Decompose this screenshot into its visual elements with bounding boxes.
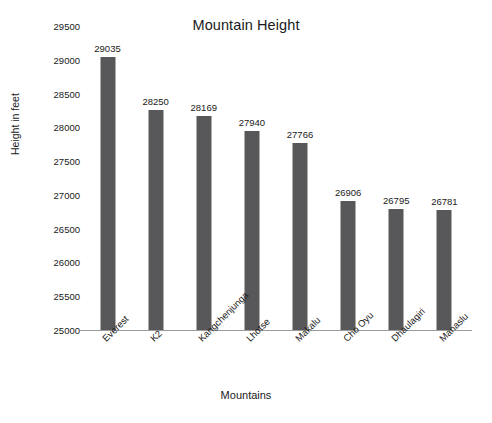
bar-slot: 28169 <box>180 26 227 330</box>
x-label-slot: Makalu <box>277 332 324 388</box>
bar[interactable] <box>341 201 356 330</box>
bar-slot: 26906 <box>325 26 372 330</box>
bar-value-label: 27940 <box>239 117 265 128</box>
plot-area: 2903528250281692794027766269062679526781 <box>84 26 469 330</box>
bar-value-label: 28169 <box>191 102 217 113</box>
bar[interactable] <box>389 209 404 330</box>
x-axis-category-labels: EverestK2KangchenjungaLhotseMakaluCho Oy… <box>84 332 469 388</box>
bar-value-label: 29035 <box>94 43 120 54</box>
x-label-slot: Cho Oyu <box>325 332 372 388</box>
y-tick-label: 28500 <box>36 88 80 99</box>
x-label-slot: K2 <box>132 332 179 388</box>
bar-slot: 26781 <box>421 26 468 330</box>
bar-value-label: 28250 <box>142 96 168 107</box>
x-label-slot: Everest <box>84 332 131 388</box>
bar-value-label: 26781 <box>431 196 457 207</box>
y-tick-label: 27000 <box>36 189 80 200</box>
x-label-slot: Kangchenjunga <box>180 332 227 388</box>
x-axis-title: Mountains <box>0 389 492 401</box>
x-label-slot: Manaslu <box>421 332 468 388</box>
bar-value-label: 26795 <box>383 195 409 206</box>
bar-slot: 28250 <box>132 26 179 330</box>
bar[interactable] <box>196 116 211 330</box>
y-tick-label: 25500 <box>36 291 80 302</box>
y-axis-tick-labels: 2500025500260002650027000275002800028500… <box>34 26 80 330</box>
y-tick-label: 25000 <box>36 325 80 336</box>
bar-chart: Mountain Height Height in feet 250002550… <box>0 0 492 423</box>
y-axis-title: Height in feet <box>9 45 21 155</box>
y-tick-label: 27500 <box>36 156 80 167</box>
bar-slot: 27940 <box>228 26 275 330</box>
bar[interactable] <box>437 210 452 330</box>
x-axis-line <box>80 330 472 331</box>
y-tick-label: 29500 <box>36 21 80 32</box>
bar-slot: 26795 <box>373 26 420 330</box>
bar-slot: 29035 <box>84 26 131 330</box>
x-label-slot: Lhotse <box>228 332 275 388</box>
y-tick-label: 26500 <box>36 223 80 234</box>
bar[interactable] <box>100 57 115 330</box>
bar-value-label: 27766 <box>287 129 313 140</box>
y-tick-label: 29000 <box>36 54 80 65</box>
bar-value-label: 26906 <box>335 187 361 198</box>
y-tick-label: 28000 <box>36 122 80 133</box>
y-tick-label: 26000 <box>36 257 80 268</box>
x-label-slot: Dhaulagiri <box>373 332 420 388</box>
bar[interactable] <box>293 143 308 330</box>
bar-slot: 27766 <box>277 26 324 330</box>
bar[interactable] <box>148 110 163 330</box>
